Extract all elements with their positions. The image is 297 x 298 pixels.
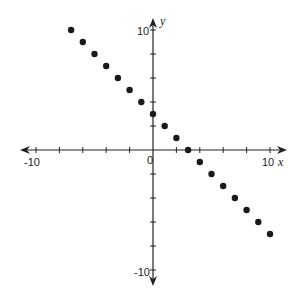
data-point [255,219,261,225]
data-point [91,51,97,57]
data-point [115,75,121,81]
data-point [103,63,109,69]
data-point [185,147,191,153]
data-point [150,111,156,117]
data-point [243,207,249,213]
data-point [68,27,74,33]
data-point [197,159,203,165]
data-point [162,123,168,129]
data-points [68,27,273,237]
data-point [232,195,238,201]
x-max-label: 10 [262,156,274,168]
data-point [138,99,144,105]
data-point [220,183,226,189]
data-point [267,231,273,237]
origin-label: 0 [147,154,153,166]
data-point [173,135,179,141]
data-point [126,87,132,93]
data-point [80,39,86,45]
x-min-label: -10 [24,156,40,168]
y-max-label: 10 [137,25,149,37]
data-point [208,171,214,177]
y-axis-label: y [159,14,166,28]
scatter-plot: -10 10 x 0 10 y -10 [0,0,297,298]
y-min-label: -10 [134,266,150,278]
x-axis-label: x [277,155,284,169]
